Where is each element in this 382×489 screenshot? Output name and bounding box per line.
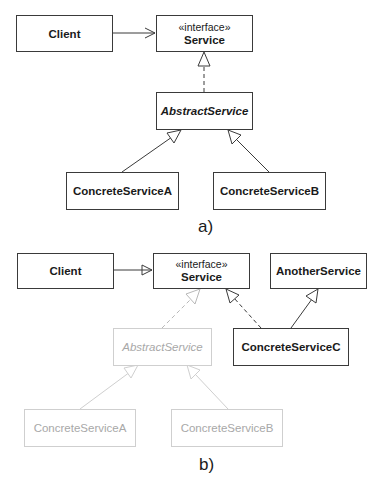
generalization-concrete-b-a — [228, 130, 269, 172]
class-name: ConcreteServiceA — [34, 421, 127, 435]
class-name: Client — [49, 27, 81, 41]
class-concrete-service-b-b[interactable]: ConcreteServiceB — [171, 409, 283, 447]
class-name: Client — [50, 264, 82, 278]
class-concrete-service-a-b[interactable]: ConcreteServiceA — [24, 409, 136, 447]
class-name: AnotherService — [276, 264, 361, 278]
caption-a: a) — [198, 217, 213, 237]
realization-abstract-service-b — [162, 289, 200, 328]
class-concrete-service-c-b[interactable]: ConcreteServiceC — [233, 328, 349, 366]
generalization-concrete-a-b — [80, 365, 138, 409]
class-client-b[interactable]: Client — [17, 253, 114, 289]
class-name: Service — [184, 33, 225, 47]
class-concrete-service-a-a[interactable]: ConcreteServiceA — [66, 172, 179, 210]
class-another-service-b[interactable]: AnotherService — [270, 253, 367, 289]
generalization-concrete-a-a — [122, 130, 181, 172]
class-name: ConcreteServiceA — [73, 184, 172, 198]
generalization-concrete-b-b — [187, 365, 228, 409]
association-client-service-a — [112, 28, 155, 38]
class-name: ConcreteServiceB — [181, 421, 274, 435]
class-name: ConcreteServiceB — [220, 184, 319, 198]
realization-abstract-service-a — [198, 52, 210, 92]
realization-concrete-c-b — [226, 289, 261, 328]
association-client-service-b — [113, 265, 152, 275]
interface-service-b[interactable]: «interface» Service — [153, 253, 250, 289]
class-client-a[interactable]: Client — [16, 15, 113, 52]
class-name: ConcreteServiceC — [241, 340, 340, 354]
class-name: Service — [181, 270, 222, 284]
stereotype-label: «interface» — [176, 258, 228, 270]
class-name: AbstractService — [122, 340, 203, 354]
stereotype-label: «interface» — [179, 21, 231, 33]
generalization-concrete-c-another-b — [291, 289, 318, 328]
class-abstract-service-a[interactable]: AbstractService — [156, 92, 253, 130]
caption-b: b) — [199, 455, 214, 475]
class-concrete-service-b-a[interactable]: ConcreteServiceB — [213, 172, 326, 210]
class-abstract-service-b[interactable]: AbstractService — [113, 328, 212, 366]
class-name: AbstractService — [161, 104, 249, 118]
interface-service-a[interactable]: «interface» Service — [156, 15, 253, 52]
